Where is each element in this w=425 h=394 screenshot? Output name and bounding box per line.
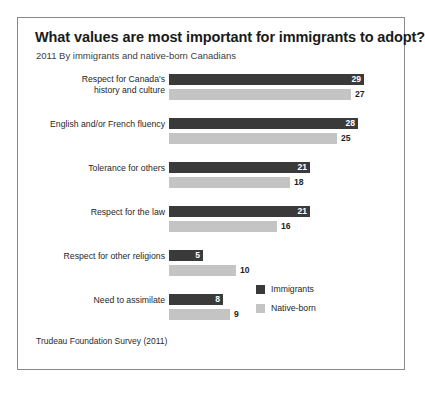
chart-title: What values are most important for immig… bbox=[35, 29, 425, 45]
bar-value-label: 9 bbox=[234, 309, 239, 320]
bar-value-label: 16 bbox=[281, 221, 291, 232]
category-label: Need to assimilate bbox=[35, 295, 165, 306]
bar bbox=[169, 89, 351, 100]
bar bbox=[169, 221, 277, 232]
category-label-line: Respect for the law bbox=[35, 207, 165, 218]
bar-row: 5 bbox=[169, 250, 229, 261]
plot-area: Respect for Canada'shistory and culture2… bbox=[18, 74, 404, 324]
bar-row: 21 bbox=[169, 162, 336, 173]
legend-label: Native-born bbox=[271, 302, 316, 314]
category-label: Respect for other religions bbox=[35, 251, 165, 262]
bar-row: 28 bbox=[169, 118, 384, 129]
bar-row: 16 bbox=[169, 221, 303, 232]
bar-row: 18 bbox=[169, 177, 316, 188]
category-label-line: Need to assimilate bbox=[35, 295, 165, 306]
category-label-line: history and culture bbox=[35, 85, 165, 96]
bar bbox=[169, 309, 230, 320]
bar-value-label: 21 bbox=[294, 162, 307, 173]
bar-group: English and/or French fluency2825 bbox=[18, 118, 404, 144]
source-note: Trudeau Foundation Survey (2011) bbox=[36, 336, 167, 346]
bar-row: 25 bbox=[169, 133, 363, 144]
bar-value-label: 25 bbox=[341, 133, 351, 144]
category-label: English and/or French fluency bbox=[35, 119, 165, 130]
bar-row: 29 bbox=[169, 74, 390, 85]
bar-value-label: 18 bbox=[294, 177, 304, 188]
bar-group: Respect for other religions510 bbox=[18, 250, 404, 276]
category-label: Respect for the law bbox=[35, 207, 165, 218]
bar bbox=[169, 162, 310, 173]
bar-row: 21 bbox=[169, 206, 336, 217]
legend-swatch-icon bbox=[256, 285, 265, 294]
legend-swatch-icon bbox=[256, 304, 265, 313]
bar-row: 9 bbox=[169, 309, 256, 320]
bar-value-label: 28 bbox=[342, 118, 355, 129]
bar-row: 27 bbox=[169, 89, 377, 100]
bar bbox=[169, 265, 236, 276]
category-label: Tolerance for others bbox=[35, 163, 165, 174]
chart-subtitle: 2011 By immigrants and native-born Canad… bbox=[36, 50, 236, 61]
category-label: Respect for Canada'shistory and culture bbox=[35, 74, 165, 95]
bar-group: Tolerance for others2118 bbox=[18, 162, 404, 188]
bar bbox=[169, 133, 337, 144]
bar-group: Respect for the law2116 bbox=[18, 206, 404, 232]
bar-value-label: 29 bbox=[348, 74, 361, 85]
bar-group: Need to assimilate89 bbox=[18, 294, 404, 320]
legend-label: Immigrants bbox=[271, 283, 314, 295]
bar-group: Respect for Canada'shistory and culture2… bbox=[18, 74, 404, 100]
category-label-line: Respect for Canada's bbox=[35, 74, 165, 85]
bar-value-label: 10 bbox=[240, 265, 250, 276]
bar-value-label: 5 bbox=[187, 250, 200, 261]
bar-value-label: 8 bbox=[207, 294, 220, 305]
bar bbox=[169, 206, 310, 217]
chart-frame: What values are most important for immig… bbox=[17, 17, 405, 370]
bar bbox=[169, 177, 290, 188]
bar bbox=[169, 118, 358, 129]
category-label-line: Tolerance for others bbox=[35, 163, 165, 174]
category-label-line: Respect for other religions bbox=[35, 251, 165, 262]
bar-value-label: 21 bbox=[294, 206, 307, 217]
bar-value-label: 27 bbox=[355, 89, 365, 100]
bar-row: 10 bbox=[169, 265, 262, 276]
bar bbox=[169, 74, 364, 85]
bar-row: 8 bbox=[169, 294, 249, 305]
category-label-line: English and/or French fluency bbox=[35, 119, 165, 130]
